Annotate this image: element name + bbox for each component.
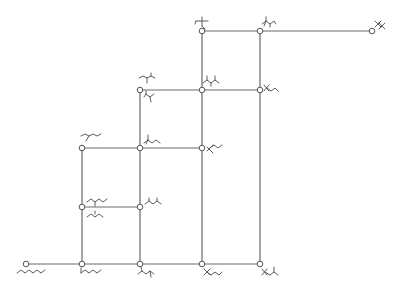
node-n5 bbox=[257, 261, 263, 267]
molecule-glyph-n12 bbox=[203, 76, 219, 86]
node-n3 bbox=[137, 261, 143, 267]
molecule-glyph-n3 bbox=[138, 267, 154, 277]
molecule-glyph-n2 bbox=[81, 268, 101, 273]
molecule-glyph-n10 bbox=[207, 145, 222, 153]
molecule-glyph-n1 bbox=[17, 270, 45, 273]
node-n7 bbox=[137, 204, 143, 210]
molecule-glyph-n14 bbox=[195, 17, 208, 29]
node-n1 bbox=[23, 261, 29, 267]
node-n15 bbox=[257, 28, 263, 34]
node-n10 bbox=[199, 145, 205, 151]
molecule-glyph-n5 bbox=[262, 267, 278, 275]
molecule-glyph-n16 bbox=[375, 21, 385, 29]
molecule-glyph-n7 bbox=[145, 198, 161, 204]
molecule-glyph-n9 bbox=[144, 135, 160, 144]
molecule-glyph-n6 bbox=[87, 199, 107, 217]
node-n6 bbox=[79, 204, 85, 210]
node-n8 bbox=[79, 145, 85, 151]
node-n4 bbox=[199, 261, 205, 267]
nodes-layer bbox=[23, 28, 375, 267]
isomer-lattice-diagram bbox=[0, 0, 401, 295]
node-n9 bbox=[137, 145, 143, 151]
node-n12 bbox=[199, 87, 205, 93]
node-n14 bbox=[199, 28, 205, 34]
node-n11 bbox=[137, 87, 143, 93]
molecule-glyph-n13 bbox=[264, 85, 278, 91]
molecule-glyph-n15 bbox=[262, 17, 276, 27]
node-n13 bbox=[257, 87, 263, 93]
node-n16 bbox=[369, 28, 375, 34]
molecule-glyph-n8 bbox=[81, 134, 101, 141]
node-n2 bbox=[79, 261, 85, 267]
molecule-glyph-n4 bbox=[204, 269, 222, 275]
